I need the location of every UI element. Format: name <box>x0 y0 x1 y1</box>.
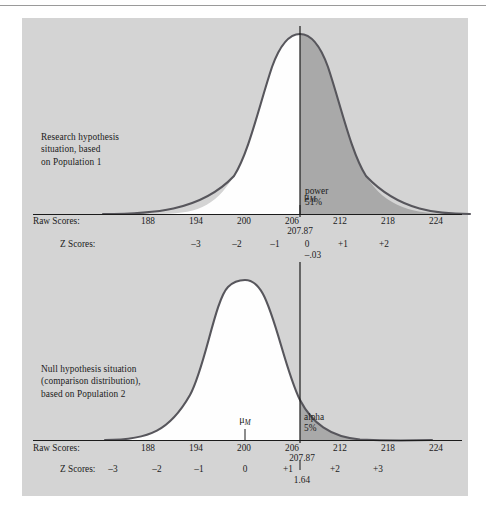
alpha-region-label: alpha 5% <box>304 412 324 435</box>
bottom-z-tick: –3 <box>108 464 117 474</box>
top-curve-left-fill <box>155 34 300 214</box>
top-mu-label: μM <box>304 191 316 204</box>
bottom-raw-tick: 206 <box>285 443 299 453</box>
top-raw-tick: 200 <box>237 216 251 226</box>
bottom-z-tick: 0 <box>243 464 248 474</box>
top-z-tick: 0 <box>305 239 310 249</box>
bottom-raw-tick: 188 <box>141 443 155 453</box>
top-z-cutoff-value: –.03 <box>305 250 321 260</box>
top-z-tick: –1 <box>270 239 279 249</box>
bottom-z-tick: –2 <box>152 464 161 474</box>
bottom-mu-label: μM <box>239 414 251 427</box>
research-hypothesis-caption: Research hypothesis situation, based on … <box>41 131 119 168</box>
top-z-tick: +2 <box>379 239 389 249</box>
bottom-z-tick: +3 <box>373 464 383 474</box>
top-distribution-group <box>33 26 470 217</box>
bottom-raw-tick: 212 <box>333 443 347 453</box>
top-raw-tick: 218 <box>381 216 395 226</box>
top-raw-tick: 224 <box>429 216 443 226</box>
bottom-z-tick: +1 <box>283 464 293 474</box>
bottom-raw-scores-label: Raw Scores: <box>33 443 80 453</box>
top-raw-tick: 188 <box>141 216 155 226</box>
top-raw-tick: 206 <box>285 216 299 226</box>
bottom-z-scores-label: Z Scores: <box>60 464 95 474</box>
distributions-svg <box>0 0 486 512</box>
bottom-raw-tick: 224 <box>429 443 443 453</box>
top-z-scores-label: Z Scores: <box>60 239 95 249</box>
null-hypothesis-caption: Null hypothesis situation (comparison di… <box>41 363 141 400</box>
bottom-raw-tick: 194 <box>189 443 203 453</box>
top-z-tick: –3 <box>191 239 200 249</box>
bottom-z-tick: –1 <box>194 464 203 474</box>
top-raw-tick: 212 <box>333 216 347 226</box>
top-z-tick: +1 <box>338 239 348 249</box>
bottom-cutoff-raw-value: 207.87 <box>289 453 315 463</box>
top-raw-tick: 194 <box>189 216 203 226</box>
bottom-z-cutoff-value: 1.64 <box>294 475 310 485</box>
top-raw-scores-label: Raw Scores: <box>33 216 80 226</box>
figure-root: Research hypothesis situation, based on … <box>0 0 486 512</box>
top-z-tick: –2 <box>232 239 241 249</box>
bottom-raw-tick: 218 <box>381 443 395 453</box>
top-cutoff-raw-value: 207.87 <box>287 226 313 236</box>
bottom-z-tick: +2 <box>330 464 340 474</box>
bottom-raw-tick: 200 <box>237 443 251 453</box>
